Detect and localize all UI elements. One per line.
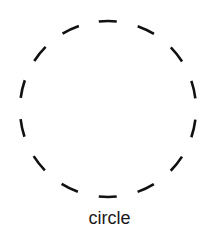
shape-label: circle — [0, 208, 219, 229]
dashed-circle — [11, 12, 204, 205]
dashed-circle-canvas — [0, 0, 219, 240]
